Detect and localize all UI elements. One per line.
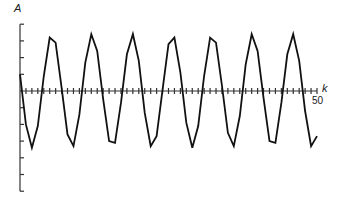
x-tick-label-50: 50 [312, 95, 323, 106]
x-axis-label: k [322, 82, 328, 94]
y-axis-label: A [14, 2, 21, 14]
x-axis [20, 88, 317, 94]
signal-plot [0, 0, 342, 203]
